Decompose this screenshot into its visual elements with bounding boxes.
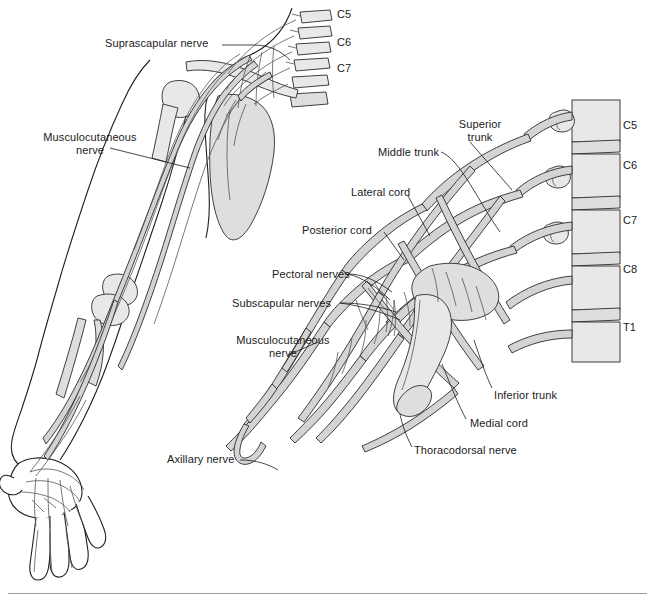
anatomy-figure: Suprascapular nerve Musculocutaneous ner… xyxy=(0,0,655,611)
label-thoracodorsal-nerve: Thoracodorsal nerve xyxy=(414,444,517,457)
label-inferior-trunk: Inferior trunk xyxy=(494,389,557,402)
label-superior-trunk: Superior trunk xyxy=(450,118,510,143)
label-c6-right: C6 xyxy=(623,159,637,172)
hand xyxy=(0,458,106,580)
label-t1-right: T1 xyxy=(623,321,636,334)
label-c5-right: C5 xyxy=(623,119,637,132)
footer-divider xyxy=(8,593,647,594)
label-pectoral-nerves: Pectoral nerves xyxy=(272,268,350,281)
label-c7-left: C7 xyxy=(337,62,351,75)
left-panel-artwork xyxy=(0,8,332,580)
label-musculocutaneous-nerve-left: Musculocutaneous nerve xyxy=(30,131,150,156)
label-suprascapular-nerve: Suprascapular nerve xyxy=(105,37,208,50)
label-musculocutaneous-nerve-right: Musculocutaneous nerve xyxy=(220,334,346,359)
label-medial-cord: Medial cord xyxy=(470,417,528,430)
label-middle-trunk: Middle trunk xyxy=(378,146,439,159)
label-c7-right: C7 xyxy=(623,214,637,227)
label-c8-right: C8 xyxy=(623,263,637,276)
label-c5-left: C5 xyxy=(337,8,351,21)
label-subscapular-nerves: Subscapular nerves xyxy=(232,297,331,310)
scapula xyxy=(210,94,275,240)
label-c6-left: C6 xyxy=(337,36,351,49)
label-axillary-nerve: Axillary nerve xyxy=(167,453,234,466)
label-lateral-cord: Lateral cord xyxy=(351,186,410,199)
vertebral-column xyxy=(572,100,620,362)
label-posterior-cord: Posterior cord xyxy=(302,224,372,237)
